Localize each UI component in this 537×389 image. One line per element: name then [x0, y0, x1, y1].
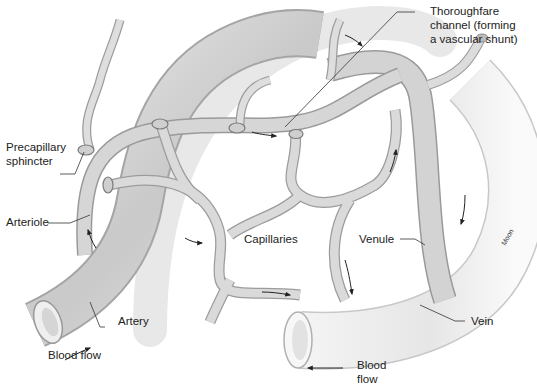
label-capillaries: Capillaries [244, 232, 298, 246]
label-precapillary-line2: sphincter [6, 154, 66, 168]
label-vein: Vein [471, 314, 493, 328]
label-precapillary-sphincter: Precapillary sphincter [6, 140, 66, 168]
label-thoroughfare-line3: a vascular shunt) [430, 32, 537, 46]
label-venule: Venule [359, 232, 394, 246]
label-thoroughfare-line1: Thoroughfare [430, 4, 537, 18]
venule [330, 34, 488, 300]
label-precapillary-line1: Precapillary [6, 140, 66, 154]
label-blood-flow-right: Blood flow [357, 358, 386, 386]
label-artery: Artery [118, 314, 149, 328]
label-thoroughfare-line2: channel (forming [430, 18, 537, 32]
label-blood-flow-right-line2: flow [357, 372, 386, 386]
label-arteriole: Arteriole [6, 215, 49, 229]
label-thoroughfare-channel: Thoroughfare channel (forming a vascular… [430, 4, 537, 46]
label-blood-flow-left: Blood flow [48, 348, 101, 362]
label-blood-flow-right-line1: Blood [357, 358, 386, 372]
capillary-bed-diagram [0, 0, 537, 389]
